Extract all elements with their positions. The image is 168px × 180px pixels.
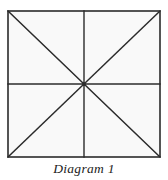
center-intersection-point xyxy=(82,82,86,86)
figure-caption: Diagram 1 xyxy=(0,161,168,177)
figure-root: Diagram 1 xyxy=(0,0,168,180)
diagram-figure xyxy=(0,0,168,180)
diagram-svg xyxy=(0,0,168,180)
